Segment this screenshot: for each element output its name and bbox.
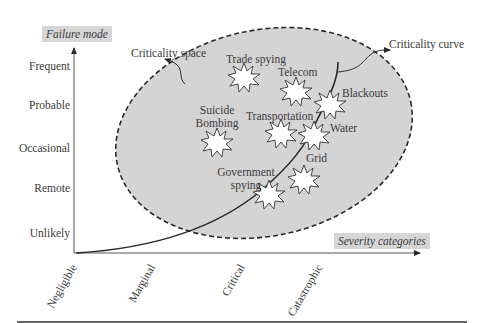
- criticality-curve-label: Criticality curve: [389, 38, 464, 51]
- y-axis-title: Failure mode: [42, 26, 112, 42]
- event-label-grid: Grid: [306, 152, 327, 165]
- y-level-occasional: Occasional: [0, 142, 70, 155]
- y-level-remote: Remote: [0, 182, 70, 195]
- criticality-space-label: Criticality space: [131, 47, 206, 60]
- event-label-transportation: Transportation: [246, 110, 313, 123]
- event-label-suicide-bombing: Suicide Bombing: [192, 104, 242, 129]
- event-label-government-spying-line2: spying: [231, 179, 262, 191]
- event-label-blackouts: Blackouts: [342, 87, 388, 100]
- event-label-suicide-bombing-line2: Bombing: [196, 117, 239, 129]
- event-label-trade-spying: Trade spying: [226, 53, 286, 66]
- criticality-space-region: [96, 1, 432, 265]
- event-label-suicide-bombing-line1: Suicide: [200, 104, 235, 116]
- y-level-probable: Probable: [0, 99, 70, 112]
- y-level-frequent: Frequent: [0, 60, 70, 73]
- y-level-unlikely: Unlikely: [0, 227, 70, 240]
- event-label-government-spying-line1: Government: [217, 166, 274, 178]
- event-label-government-spying: Government spying: [210, 166, 282, 191]
- x-axis-title: Severity categories: [334, 233, 430, 249]
- event-label-water: Water: [330, 122, 357, 135]
- event-label-telecom: Telecom: [278, 66, 317, 79]
